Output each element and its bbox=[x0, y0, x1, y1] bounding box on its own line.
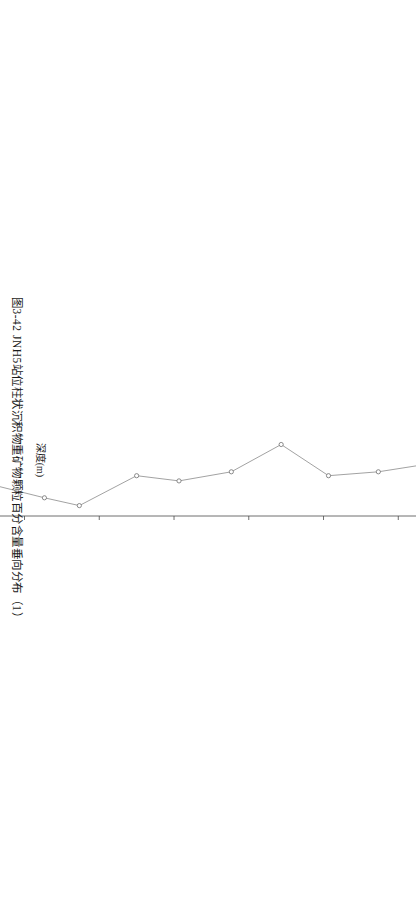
panel-stack: 01.53.04.56.0磷灰石(%)0246810白云石(%)036912黑云… bbox=[56, 10, 408, 910]
data-point bbox=[229, 469, 233, 473]
series-line bbox=[0, 444, 416, 505]
data-point bbox=[279, 442, 283, 446]
data-point bbox=[376, 469, 380, 473]
chart-panel: 01.53.04.56.0磷灰石(%) bbox=[0, 313, 416, 665]
data-point bbox=[77, 503, 81, 507]
data-point bbox=[135, 473, 139, 477]
x-axis-label: 深度(m) bbox=[34, 10, 49, 910]
data-point bbox=[326, 473, 330, 477]
chart-svg: 01.53.04.56.0磷灰石(%) bbox=[0, 432, 416, 546]
figure-page: 01.53.04.56.0磷灰石(%)0246810白云石(%)036912黑云… bbox=[0, 0, 416, 919]
rotated-figure-wrapper: 01.53.04.56.0磷灰石(%)0246810白云石(%)036912黑云… bbox=[8, 10, 408, 910]
data-point bbox=[177, 478, 181, 482]
figure-body: 01.53.04.56.0磷灰石(%)0246810白云石(%)036912黑云… bbox=[8, 10, 408, 910]
figure-caption: 图3-42 JNH5站位柱状沉积物重矿物颗粒百分含量垂向分布（1） bbox=[10, 10, 26, 910]
